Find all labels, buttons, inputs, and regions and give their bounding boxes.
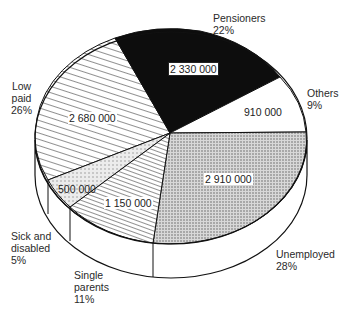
- value-unemployed: 2 910 000: [204, 173, 253, 185]
- label-low-paid: Low paid 26%: [11, 80, 32, 116]
- value-others: 910 000: [243, 106, 283, 118]
- label-others: Others 9%: [307, 87, 339, 111]
- label-sick-disabled: Sick and disabled 5%: [11, 230, 51, 266]
- label-pensioners-name: Pensioners: [213, 12, 266, 24]
- pie-top: [35, 29, 307, 244]
- label-pensioners-percent: 22%: [213, 24, 266, 36]
- value-low-paid: 2 680 000: [68, 112, 117, 124]
- label-low-paid-name-1: Low: [11, 80, 32, 92]
- label-sick-percent: 5%: [11, 254, 51, 266]
- label-unemployed: Unemployed 28%: [276, 248, 335, 272]
- label-others-percent: 9%: [307, 99, 339, 111]
- value-single-parents: 1 150 000: [104, 197, 153, 209]
- label-single-name-1: Single: [74, 269, 109, 281]
- value-pensioners: 2 330 000: [168, 62, 219, 76]
- label-single-parents: Single parents 11%: [74, 269, 109, 305]
- label-single-name-2: parents: [74, 281, 109, 293]
- label-sick-name-2: disabled: [11, 242, 51, 254]
- label-pensioners: Pensioners 22%: [213, 12, 266, 36]
- label-unemployed-percent: 28%: [276, 260, 335, 272]
- value-sick-disabled: 500 000: [57, 183, 97, 195]
- label-sick-name-1: Sick and: [11, 230, 51, 242]
- label-low-paid-percent: 26%: [11, 104, 32, 116]
- label-single-percent: 11%: [74, 293, 109, 305]
- label-low-paid-name-2: paid: [11, 92, 32, 104]
- label-others-name: Others: [307, 87, 339, 99]
- label-unemployed-name: Unemployed: [276, 248, 335, 260]
